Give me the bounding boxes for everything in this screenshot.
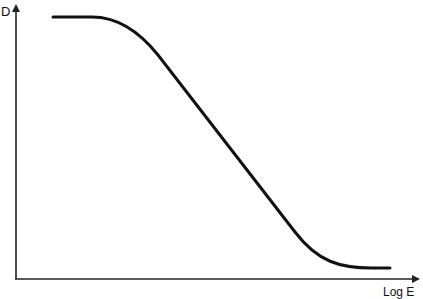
characteristic-curve — [53, 17, 390, 268]
x-axis-label: Log E — [383, 285, 414, 299]
y-axis-label: D — [1, 4, 10, 19]
chart: D Log E — [0, 0, 423, 299]
